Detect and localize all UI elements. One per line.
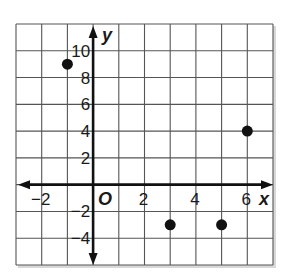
y-tick-label: 4 [81,122,90,141]
x-axis-left-arrow-icon [18,180,30,189]
data-point [242,126,253,137]
tick-labels: −2246108642−2−4 [31,42,251,248]
data-point [216,219,227,230]
y-tick-label: −2 [71,202,90,221]
y-tick-label: 2 [81,149,90,168]
y-tick-label: 6 [81,95,90,114]
grid-shadow [18,26,276,268]
y-axis-down-arrow-icon [89,253,98,265]
y-tick-label: 10 [71,42,90,61]
x-tick-label: 2 [139,190,148,209]
x-tick-label: 4 [190,190,199,209]
x-axis-label: x [258,189,270,209]
origin-label: O [98,189,112,209]
data-point [62,59,73,70]
data-points [62,59,253,231]
data-point [165,219,176,230]
y-axis-label: y [101,25,113,45]
y-axis-up-arrow-icon [89,26,98,38]
y-tick-label: 8 [81,69,90,88]
x-tick-label: 6 [242,190,251,209]
x-tick-label: −2 [31,190,50,209]
y-tick-label: −4 [71,229,90,248]
coordinate-plane-chart: −2246108642−2−4 x y O [0,0,287,276]
axes [18,26,273,265]
grid-lines [16,24,273,265]
